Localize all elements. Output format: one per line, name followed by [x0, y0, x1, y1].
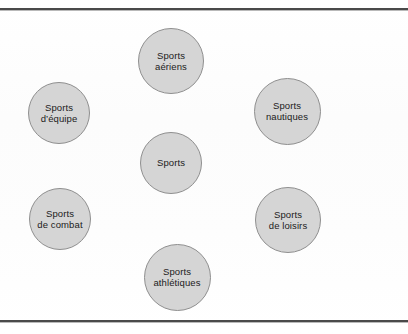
node-label-sports-center: Sports	[153, 157, 189, 169]
node-sports-de-combat[interactable]: Sports de combat	[29, 188, 91, 250]
node-label-sports-de-combat: Sports de combat	[33, 208, 86, 231]
node-label-sports-athletiques: Sports athlétiques	[149, 266, 204, 289]
node-sports-d-equipe[interactable]: Sports d’équipe	[28, 82, 90, 144]
node-label-sports-nautiques: Sports nautiques	[262, 100, 312, 123]
bottom-divider-rule-shadow	[0, 322, 408, 323]
node-sports-athletiques[interactable]: Sports athlétiques	[144, 244, 211, 311]
figure-page: Sports aériens Sports d’équipe Sports na…	[0, 0, 408, 334]
node-sports-aeriens[interactable]: Sports aériens	[138, 28, 204, 94]
node-label-sports-de-loisirs: Sports de loisirs	[265, 209, 312, 232]
node-label-sports-aeriens: Sports aériens	[151, 50, 191, 73]
node-sports-center[interactable]: Sports	[140, 132, 202, 194]
node-label-sports-d-equipe: Sports d’équipe	[37, 102, 82, 125]
node-sports-de-loisirs[interactable]: Sports de loisirs	[255, 187, 321, 253]
concept-map-diagram: Sports aériens Sports d’équipe Sports na…	[0, 0, 408, 334]
node-sports-nautiques[interactable]: Sports nautiques	[254, 78, 321, 145]
